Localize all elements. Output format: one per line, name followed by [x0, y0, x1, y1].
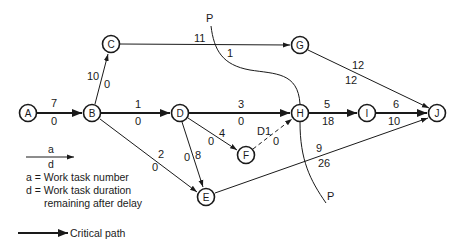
legend-line-1: a = Work task number: [26, 171, 129, 183]
svg-text:E: E: [203, 192, 210, 203]
label-d-f-duration: 0: [208, 135, 214, 147]
label-h-i-duration: 18: [322, 115, 334, 127]
cut-label-top: P: [206, 12, 213, 24]
node-a: A: [20, 105, 37, 122]
label-b-c-duration: 0: [104, 78, 110, 90]
label-b-e-task: 2: [158, 148, 164, 160]
label-a-b-task: 7: [51, 97, 57, 109]
label-f-h-duration: 0: [273, 135, 279, 147]
svg-text:B: B: [89, 108, 96, 119]
label-d-e-task: 8: [195, 149, 201, 161]
svg-text:A: A: [25, 108, 32, 119]
label-c-g-task: 11: [194, 32, 205, 44]
svg-text:G: G: [296, 40, 304, 51]
svg-text:I: I: [366, 108, 369, 119]
label-i-j-task: 6: [393, 98, 399, 110]
label-e-j-task: 9: [316, 142, 322, 154]
node-h: H: [292, 105, 309, 122]
legend-arrow-top: a: [48, 143, 54, 155]
legend-line-3: remaining after delay: [44, 197, 143, 209]
legend-arrow-bottom: d: [48, 158, 54, 170]
svg-text:J: J: [435, 108, 440, 119]
label-d-h-task: 3: [238, 98, 244, 110]
legend: a d a = Work task number d = Work task d…: [18, 143, 143, 239]
legend-critical-label: Critical path: [70, 227, 126, 239]
label-d-h-duration: 0: [238, 115, 244, 127]
label-f-h-task: D1: [257, 125, 271, 137]
node-d: D: [172, 105, 189, 122]
label-g-j-task: 12: [352, 59, 364, 71]
node-j: J: [429, 105, 446, 122]
label-a-b-duration: 0: [51, 115, 57, 127]
cut-label-bottom: P: [327, 190, 334, 202]
node-f: F: [238, 147, 255, 164]
node-i: I: [359, 105, 376, 122]
node-g: G: [292, 37, 309, 54]
label-e-j-duration: 26: [318, 157, 330, 169]
label-b-e-duration: 0: [152, 161, 158, 173]
svg-text:C: C: [107, 39, 114, 50]
svg-text:D: D: [176, 108, 183, 119]
label-d-f-task: 4: [219, 127, 225, 139]
label-d-e-duration: 0: [184, 151, 190, 163]
legend-line-2: d = Work task duration: [26, 184, 131, 196]
label-h-i-task: 5: [324, 98, 330, 110]
node-e: E: [198, 189, 215, 206]
edge-c-g: [120, 44, 290, 45]
label-b-d-task: 1: [135, 98, 141, 110]
label-b-d-duration: 0: [135, 115, 141, 127]
label-g-j-duration: 12: [345, 74, 357, 86]
svg-text:F: F: [243, 150, 249, 161]
label-i-j-duration: 10: [388, 115, 400, 127]
svg-text:H: H: [296, 108, 303, 119]
node-b: B: [84, 105, 101, 122]
network-diagram: P P 7 0 10 0 1 0 2 0 11 1 3 0 4 0 8 0 D1…: [0, 0, 459, 249]
node-c: C: [103, 36, 120, 53]
label-c-g-duration: 1: [227, 47, 233, 59]
label-b-c-task: 10: [87, 70, 99, 82]
edge-labels: 7 0 10 0 1 0 2 0 11 1 3 0 4 0 8 0 D1 0 1…: [51, 32, 400, 173]
